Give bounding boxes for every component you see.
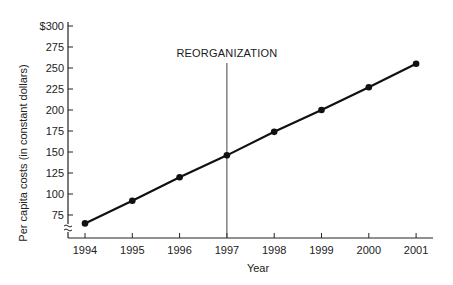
x-tick-label: 1995 [120,244,144,256]
y-axis-title: Per capita costs (in constant dollars) [17,64,29,241]
axis-break-icon [64,224,72,232]
x-axis: 19941995199619971998199920002001 [68,233,433,256]
y-tick-label: 175 [46,125,64,137]
y-tick-label: $300 [40,20,64,32]
data-series [82,61,420,227]
y-tick-label: 100 [46,188,64,200]
x-tick-label: 1999 [309,244,333,256]
y-axis: $30027525022520017515012510075 [40,20,73,238]
y-tick-label: 200 [46,104,64,116]
data-point [413,61,420,68]
x-tick-label: 2000 [357,244,381,256]
y-tick-label: 250 [46,62,64,74]
data-point [129,197,136,204]
y-tick-label: 225 [46,83,64,95]
data-point [366,84,373,91]
y-tick-label: 275 [46,41,64,53]
y-tick-label: 150 [46,146,64,158]
data-point [224,152,231,159]
x-tick-label: 1997 [215,244,239,256]
reorganization-label: REORGANIZATION [176,47,277,59]
line-chart: $30027525022520017515012510075 199419951… [0,0,453,285]
reorganization-annotation: REORGANIZATION [176,47,277,238]
x-tick-label: 1994 [73,244,97,256]
y-tick-label: 125 [46,167,64,179]
data-point [271,129,278,136]
data-point [82,220,89,227]
x-tick-label: 2001 [404,244,428,256]
x-tick-label: 1996 [167,244,191,256]
data-point [176,174,183,181]
data-point [318,107,325,114]
y-tick-label: 75 [52,209,64,221]
x-tick-label: 1998 [262,244,286,256]
x-axis-title: Year [247,262,270,274]
